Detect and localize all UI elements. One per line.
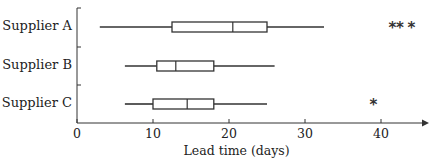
outlier-marker: * (369, 96, 377, 114)
category-label: Supplier A (2, 18, 72, 33)
x-axis-arrow-icon (422, 120, 429, 127)
x-tick-label: 30 (297, 126, 313, 141)
x-tick-label: 0 (73, 126, 81, 141)
iqr-box (172, 22, 267, 32)
outlier-marker: * (396, 19, 404, 37)
x-tick-label: 40 (373, 126, 389, 141)
x-axis-label: Lead time (days) (184, 143, 290, 158)
category-label: Supplier C (2, 95, 72, 110)
category-label: Supplier B (2, 57, 72, 72)
iqr-box (153, 99, 214, 109)
outlier-marker: * (407, 19, 415, 37)
x-tick-label: 10 (145, 126, 161, 141)
x-tick-label: 20 (221, 126, 237, 141)
iqr-box (157, 61, 214, 71)
box-plot-chart: **** 010203040Supplier ASupplier BSuppli… (0, 0, 432, 162)
